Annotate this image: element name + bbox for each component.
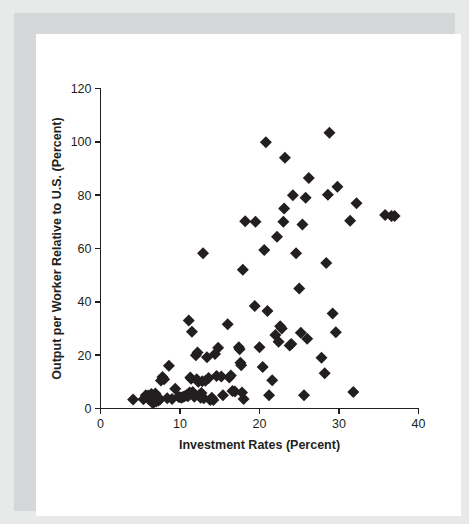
y-tick-label-40: 40: [78, 295, 92, 309]
x-tick-label-40: 40: [412, 417, 426, 431]
data-point: [249, 300, 261, 312]
x-tick-label-0: 0: [97, 417, 104, 431]
data-point: [344, 215, 356, 227]
x-tick-label-10: 10: [173, 417, 187, 431]
data-point: [257, 361, 269, 373]
y-tick-label-20: 20: [78, 349, 92, 363]
data-point: [239, 215, 251, 227]
data-point: [186, 326, 198, 338]
data-point: [320, 257, 332, 269]
x-axis-title: Investment Rates (Percent): [179, 438, 340, 452]
data-point: [298, 389, 310, 401]
data-point: [300, 192, 312, 204]
y-tick-label-120: 120: [71, 82, 92, 96]
data-point: [327, 308, 339, 320]
data-point: [183, 315, 195, 327]
y-axis-title: Output per Worker Relative to U.S. (Perc…: [50, 117, 64, 379]
scatter-plot: 020406080100120010203040 Investment Rate…: [0, 0, 469, 524]
y-tick-label-100: 100: [71, 135, 92, 149]
data-point: [279, 152, 291, 164]
data-point: [347, 386, 359, 398]
data-point: [222, 318, 234, 330]
data-point: [260, 136, 272, 148]
data-point: [163, 360, 175, 372]
data-markers-group: [127, 127, 401, 409]
data-point: [197, 247, 209, 259]
chart-svg: 020406080100120010203040 Investment Rate…: [0, 0, 469, 524]
y-tick-label-60: 60: [78, 242, 92, 256]
data-point: [258, 244, 270, 256]
data-point: [287, 189, 299, 201]
data-point: [350, 197, 362, 209]
data-point: [261, 305, 273, 317]
data-point: [330, 326, 342, 338]
tick-labels-group: 020406080100120010203040: [71, 82, 426, 431]
data-point: [296, 219, 308, 231]
data-point: [250, 216, 262, 228]
y-tick-label-80: 80: [78, 189, 92, 203]
data-point: [290, 247, 302, 259]
data-point: [331, 181, 343, 193]
data-point: [266, 374, 278, 386]
data-point: [322, 189, 334, 201]
data-point: [303, 172, 315, 184]
data-point: [323, 127, 335, 139]
axes-group: [101, 89, 419, 409]
data-point: [271, 231, 283, 243]
data-point: [319, 367, 331, 379]
data-point: [127, 393, 139, 405]
data-point: [263, 389, 275, 401]
data-point: [237, 264, 249, 276]
data-point: [278, 203, 290, 215]
data-point: [254, 341, 266, 353]
ticks-group: [95, 89, 419, 415]
x-tick-label-20: 20: [253, 417, 267, 431]
x-tick-label-30: 30: [332, 417, 346, 431]
y-tick-label-0: 0: [85, 402, 92, 416]
data-point: [293, 283, 305, 295]
data-point: [316, 352, 328, 364]
data-point: [277, 216, 289, 228]
